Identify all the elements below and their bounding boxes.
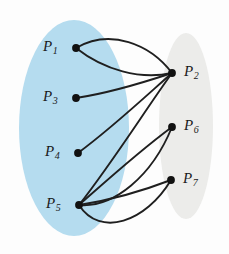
node-label-p2: P2 <box>184 64 198 79</box>
graph-node-p5 <box>75 201 83 209</box>
node-label-subscript: 3 <box>53 95 58 106</box>
node-label-base: P <box>184 63 193 79</box>
node-label-p6: P6 <box>184 118 198 133</box>
node-label-base: P <box>43 88 52 104</box>
node-label-p7: P7 <box>183 171 197 186</box>
node-label-subscript: 1 <box>53 45 58 56</box>
node-label-subscript: 4 <box>55 150 60 161</box>
node-label-base: P <box>46 195 55 211</box>
graph-node-p1 <box>72 44 80 52</box>
graph-node-p2 <box>168 69 176 77</box>
node-label-subscript: 6 <box>194 124 199 135</box>
node-label-p3: P3 <box>43 89 57 104</box>
node-label-base: P <box>43 38 52 54</box>
graph-node-p4 <box>74 149 82 157</box>
node-label-subscript: 7 <box>193 177 198 188</box>
graph-node-p3 <box>72 94 80 102</box>
node-label-base: P <box>183 170 192 186</box>
node-label-p5: P5 <box>46 196 60 211</box>
blue-ellipse-region <box>19 20 129 236</box>
node-label-base: P <box>184 117 193 133</box>
node-label-subscript: 5 <box>56 202 61 213</box>
graph-node-p7 <box>167 176 175 184</box>
node-label-subscript: 2 <box>194 70 199 81</box>
node-label-p4: P4 <box>45 144 59 159</box>
node-label-base: P <box>45 143 54 159</box>
node-label-p1: P1 <box>43 39 57 54</box>
graph-diagram: P1P3P4P5P2P6P7 <box>0 0 229 254</box>
graph-node-p6 <box>168 123 176 131</box>
